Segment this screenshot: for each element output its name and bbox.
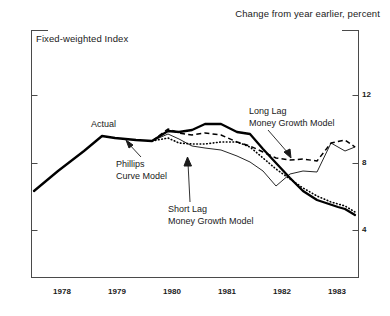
leader-long-lag-head — [284, 149, 291, 158]
x-tick-label-1983: 1983 — [328, 287, 346, 296]
series-label-longlag-line2: Money Growth Model — [249, 118, 335, 130]
series-label-long-lag-money-growth-model: Long Lag Money Growth Model — [249, 106, 335, 129]
series-label-actual: Actual — [91, 119, 116, 131]
leader-long-lag — [268, 130, 288, 153]
series-label-longlag-line1: Long Lag — [249, 106, 335, 118]
series-label-phillips-line2: Curve Model — [116, 171, 167, 183]
series-label-short-lag-money-growth-model: Short Lag Money Growth Model — [168, 204, 254, 227]
x-tick-label-1978: 1978 — [53, 287, 71, 296]
x-tick-label-1982: 1982 — [273, 287, 291, 296]
series-actual — [34, 124, 355, 215]
x-tick-label-1981: 1981 — [218, 287, 236, 296]
series-phillips-curve-model — [152, 138, 355, 212]
series-label-shortlag-line2: Money Growth Model — [168, 216, 254, 228]
series-label-phillips-curve-model: Phillips Curve Model — [116, 159, 167, 182]
chart-figure: Change from year earlier, percent Fixed-… — [0, 0, 390, 316]
x-tick-label-1980: 1980 — [163, 287, 181, 296]
x-tick-label-1979: 1979 — [108, 287, 126, 296]
series-label-phillips-line1: Phillips — [116, 159, 167, 171]
y-tick-label-8: 8 — [362, 158, 366, 167]
leader-short-lag-head — [184, 157, 192, 166]
series-short-lag-money-growth-model — [152, 134, 355, 186]
plot-area — [0, 0, 390, 316]
leader-short-lag — [188, 163, 190, 202]
y-tick-label-4: 4 — [362, 225, 366, 234]
series-label-shortlag-line1: Short Lag — [168, 204, 254, 216]
y-tick-label-12: 12 — [362, 90, 371, 99]
